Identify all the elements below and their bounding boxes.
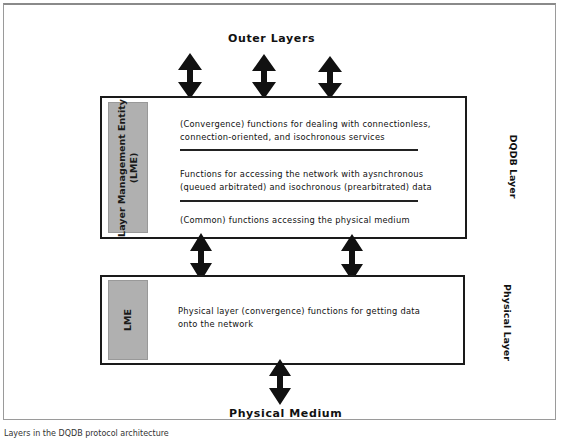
function-physical-convergence: Physical layer (convergence) functions f… [178,305,420,331]
physical-medium-label: Physical Medium [229,407,342,420]
divider [180,149,418,151]
function-convergence: (Convergence) functions for dealing with… [180,118,431,144]
double-arrow-icon [318,56,342,99]
figure-caption: Layers in the DQDB protocol architecture [4,429,169,438]
function-access: Functions for accessing the network with… [180,168,432,194]
lme-label-physical: LME [122,309,134,331]
double-arrow-icon [178,53,202,99]
physical-layer-box: LME Physical layer (convergence) functio… [100,275,465,365]
lme-panel-physical: LME [108,280,148,360]
function-common: (Common) functions accessing the physica… [180,214,410,227]
lme-panel-dqdb: Layer Management Entity (LME) [108,102,148,233]
dqdb-layer-label: DQDB Layer [508,135,519,199]
dqdb-layer-box: Layer Management Entity (LME) (Convergen… [100,96,467,239]
double-arrow-icon [252,54,276,99]
outer-layers-label: Outer Layers [228,32,315,45]
lme-label-dqdb: Layer Management Entity (LME) [116,99,140,237]
physical-layer-label: Physical Layer [502,284,513,361]
double-arrow-icon [341,234,363,281]
divider [180,200,418,202]
double-arrow-icon [269,359,291,405]
double-arrow-icon [190,233,212,281]
